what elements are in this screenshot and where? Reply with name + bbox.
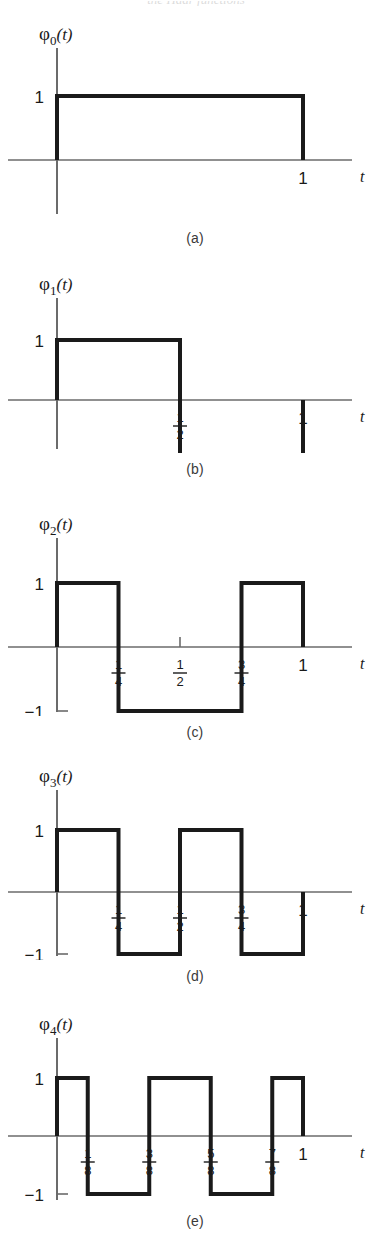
y-tick-label-minus-one: −1 — [25, 703, 44, 716]
x-tick-1-over-2: 12 — [173, 657, 187, 689]
fraction-denominator: 2 — [176, 674, 183, 689]
y-axis-label-phi4: φ4(t) — [39, 1013, 73, 1038]
chart-svg-phi3: φ3(t)t1−11412341 — [0, 760, 390, 960]
x-tick-label: 1 — [298, 169, 307, 188]
waveform-phi0 — [57, 96, 303, 160]
panel-caption-b: (b) — [0, 461, 390, 477]
x-axis-label: t — [360, 655, 365, 672]
panel-caption-a: (a) — [0, 230, 390, 246]
y-tick-label-one: 1 — [35, 822, 44, 841]
x-tick-label: 1 — [298, 656, 307, 675]
x-tick-label: 1 — [298, 1145, 307, 1164]
panel-caption-e: (e) — [0, 1213, 390, 1229]
chart-svg-phi2: φ2(t)t1−11412341 — [0, 508, 390, 716]
x-axis-label: t — [360, 1144, 365, 1161]
y-tick-label-one: 1 — [35, 332, 44, 351]
bleed-text-content: the Haar functions — [96, 1, 296, 5]
y-axis-label-phi2: φ2(t) — [39, 513, 73, 538]
haar-functions-figure: the Haar functions φ0(t)t11(a)φ1(t)t1−11… — [0, 0, 390, 1246]
fraction-numerator: 1 — [176, 657, 183, 672]
x-tick-1: 1 — [298, 656, 307, 675]
chart-panel-phi0: φ0(t)t11 — [0, 18, 390, 218]
x-tick-1: 1 — [298, 1145, 307, 1164]
page-bleed-text: the Haar functions — [96, 1, 296, 6]
y-tick-label-one: 1 — [35, 88, 44, 107]
chart-svg-phi4: φ4(t)t1−1183858781 — [0, 1008, 390, 1204]
x-axis-label: t — [360, 168, 365, 185]
y-tick-label-one: 1 — [35, 575, 44, 594]
panel-caption-d: (d) — [0, 968, 390, 984]
waveform-phi1 — [57, 340, 303, 453]
y-tick-label-minus-one: −1 — [25, 946, 44, 960]
y-axis-label-phi1: φ1(t) — [39, 273, 73, 298]
y-tick-label-minus-one: −1 — [25, 452, 44, 453]
y-axis-label-phi0: φ0(t) — [39, 23, 73, 48]
chart-svg-phi1: φ1(t)t1−1121 — [0, 268, 390, 453]
x-axis-label: t — [360, 408, 365, 425]
x-axis-label: t — [360, 900, 365, 917]
chart-panel-phi3: φ3(t)t1−11412341 — [0, 760, 390, 960]
chart-panel-phi4: φ4(t)t1−1183858781 — [0, 1008, 390, 1204]
y-axis-label-phi3: φ3(t) — [39, 765, 73, 790]
y-tick-label-one: 1 — [35, 1070, 44, 1089]
panel-caption-c: (c) — [0, 724, 390, 740]
y-tick-label-minus-one: −1 — [25, 1186, 44, 1204]
chart-panel-phi1: φ1(t)t1−1121 — [0, 268, 390, 453]
chart-panel-phi2: φ2(t)t1−11412341 — [0, 508, 390, 716]
chart-svg-phi0: φ0(t)t11 — [0, 18, 390, 218]
x-tick-1: 1 — [298, 169, 307, 188]
